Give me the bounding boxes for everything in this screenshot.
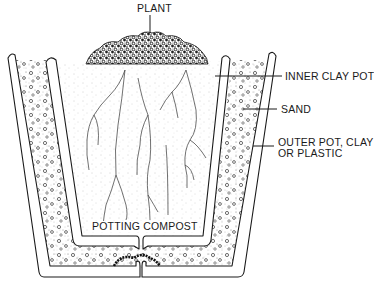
- label-plant: PLANT: [137, 3, 172, 14]
- label-outer-pot-line2: OR PLASTIC: [278, 148, 342, 159]
- label-potting-compost: POTTING COMPOST: [91, 221, 199, 232]
- label-inner-clay-pot: INNER CLAY POT: [285, 71, 374, 82]
- plant-foliage: [86, 32, 208, 64]
- label-sand: SAND: [281, 104, 311, 115]
